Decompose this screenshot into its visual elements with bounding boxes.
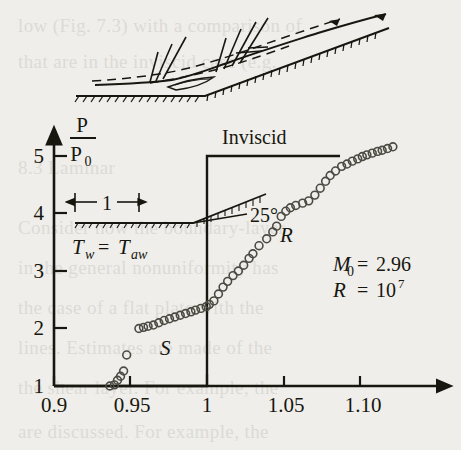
x-tick-1.10: 1.10: [345, 393, 382, 417]
data-point: [277, 212, 285, 220]
y-axis-label: P P 0: [70, 113, 96, 169]
inset-angle-reference-line: [193, 214, 247, 223]
reynolds-exponent: 7: [398, 276, 405, 291]
dashed-streamlines: [92, 19, 340, 83]
x-tick-0.95: 0.95: [114, 393, 151, 417]
y-tick-3: 3: [34, 259, 45, 283]
inset-length-dimension: 1: [75, 192, 139, 214]
data-point: [311, 191, 319, 199]
shock-boundary-layer-figure: 1 2 3 4 5 0.9 0.95 1 1.05 1.10 P P 0 Inv…: [0, 0, 461, 450]
y-axis-denominator-subscript: 0: [85, 154, 92, 169]
inset-ramp-diagram: 25° 1 T w = T aw: [72, 192, 278, 262]
inset-length-label: 1: [102, 192, 112, 214]
y-axis-denominator: P: [70, 142, 82, 166]
inviscid-label: Inviscid: [222, 126, 286, 148]
inset-Tw-symbol: T: [72, 235, 85, 259]
y-tick-5: 5: [34, 144, 45, 168]
y-tick-2: 2: [34, 316, 45, 340]
reynolds-base: 10: [376, 279, 396, 301]
x-tick-1: 1: [202, 393, 213, 417]
data-point: [240, 261, 248, 269]
y-axis-numerator: P: [76, 113, 88, 137]
mach-subscript: 0: [347, 264, 354, 279]
y-tick-4: 4: [34, 201, 45, 225]
inviscid-curve: [54, 156, 340, 386]
data-point: [263, 235, 271, 243]
mach-value: 2.96: [376, 253, 411, 275]
x-tick-0.9: 0.9: [41, 393, 67, 417]
inset-Taw-subscript: aw: [131, 247, 148, 262]
data-point: [255, 242, 263, 250]
figure-canvas: 1 2 3 4 5 0.9 0.95 1 1.05 1.10 P P 0 Inv…: [0, 0, 461, 450]
flowfield-sketch: [75, 14, 389, 102]
y-tick-labels: 1 2 3 4 5: [34, 144, 45, 398]
inset-wall-temperature-label: T w = T aw: [72, 235, 148, 262]
x-tick-labels: 0.9 0.95 1 1.05 1.10: [41, 393, 382, 417]
reynolds-equals: =: [357, 279, 368, 301]
x-tick-1.05: 1.05: [268, 393, 305, 417]
inset-Tw-subscript: w: [85, 247, 95, 262]
inset-temp-equals: =: [98, 236, 109, 258]
data-point: [123, 351, 131, 359]
y-axis-ticks: [54, 156, 67, 386]
inset-Taw-symbol: T: [118, 235, 131, 259]
reynolds-symbol: R: [332, 278, 346, 302]
data-point: [316, 184, 324, 192]
mach-equals: =: [357, 253, 368, 275]
separation-label: S: [160, 336, 171, 360]
flow-conditions-block: M 0 = 2.96 R = 10 7: [332, 252, 411, 302]
